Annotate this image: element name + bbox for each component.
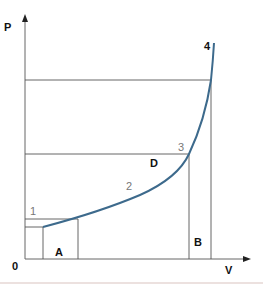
origin-label: 0 [12,260,18,272]
region-label-d: D [150,157,158,169]
x-axis-arrow-icon [243,256,251,262]
y-axis-label: P [4,21,11,33]
region-label-a: A [55,246,63,258]
x-axis-label: V [225,264,233,276]
pv-diagram: P V 0 1 2 3 4 A B D [0,0,263,285]
pv-curve [43,43,214,227]
point-label-2: 2 [126,180,132,192]
region-label-b: B [194,236,202,248]
point-label-3: 3 [178,141,184,153]
y-axis-arrow-icon [22,14,28,22]
point-label-4: 4 [204,40,211,52]
point-label-1: 1 [30,205,36,217]
